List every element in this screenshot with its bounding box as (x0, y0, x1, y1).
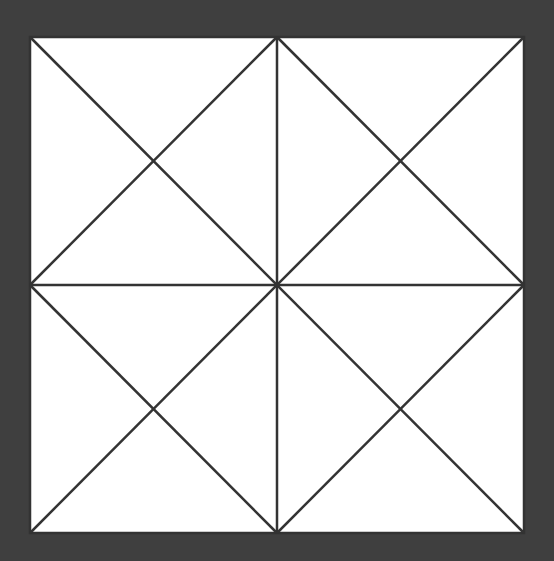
line-group (30, 37, 524, 533)
geometric-square-diagram (0, 0, 554, 561)
